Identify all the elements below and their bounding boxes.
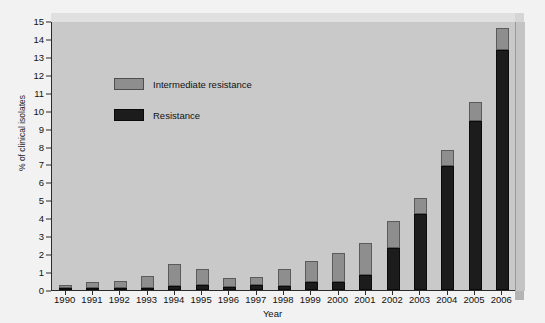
bar-segment-resistance [414, 214, 427, 290]
plot-area: Intermediate resistance Resistance [51, 22, 515, 291]
bar-segment-resistance [332, 282, 345, 290]
bar-segment-resistance [250, 285, 263, 290]
x-tick-label: 2005 [463, 294, 484, 305]
x-tick-label: 1992 [109, 294, 130, 305]
legend-item-resistance: Resistance [114, 109, 200, 121]
plot-right-bevel [515, 22, 525, 291]
bar-segment-intermediate [332, 253, 345, 282]
plot-bottom-bevel [515, 291, 524, 300]
bar-segment-resistance [223, 287, 236, 290]
y-tick-label: 14 [22, 35, 44, 45]
y-tick-label: 0 [22, 286, 44, 296]
bar-segment-intermediate [250, 277, 263, 284]
y-tick-label: 7 [22, 161, 44, 171]
y-tick-label: 12 [22, 71, 44, 81]
bar-segment-intermediate [469, 102, 482, 122]
bar-segment-intermediate [223, 278, 236, 287]
y-tick-label: 5 [22, 197, 44, 207]
bar-segment-intermediate [305, 261, 318, 282]
legend-label-resistance: Resistance [153, 110, 200, 121]
bar-segment-resistance [496, 50, 509, 290]
bar-segment-intermediate [114, 281, 127, 288]
y-tick-label: 9 [22, 125, 44, 135]
bar-segment-intermediate [387, 221, 400, 248]
bar-column [414, 21, 427, 290]
bar-segment-intermediate [168, 264, 181, 286]
chart-figure: % of clinical isolates 01234567891011121… [0, 0, 545, 323]
x-tick-label: 2004 [436, 294, 457, 305]
y-tick-label: 2 [22, 250, 44, 260]
legend-item-intermediate: Intermediate resistance [114, 78, 252, 90]
bar-column [332, 21, 345, 290]
y-tick-label: 3 [22, 232, 44, 242]
y-tick-label: 8 [22, 143, 44, 153]
x-tick-label: 1991 [81, 294, 102, 305]
bar-column [86, 21, 99, 290]
x-tick-label: 2003 [409, 294, 430, 305]
bar-segment-resistance [168, 286, 181, 290]
y-tick-label: 15 [22, 17, 44, 27]
x-tick-label: 2001 [354, 294, 375, 305]
bar-column [441, 21, 454, 290]
y-tick-label: 10 [22, 107, 44, 117]
bar-segment-intermediate [86, 282, 99, 288]
y-tick-label: 13 [22, 53, 44, 63]
x-tick-label: 1993 [136, 294, 157, 305]
x-tick-label: 1997 [245, 294, 266, 305]
plot-corner-bevel [515, 13, 524, 22]
bar-group [52, 22, 515, 290]
bar-segment-resistance [305, 282, 318, 290]
x-tick-label: 1995 [191, 294, 212, 305]
y-tick-label: 11 [22, 89, 44, 99]
bar-column [250, 21, 263, 290]
x-tick-label: 2000 [327, 294, 348, 305]
x-tick-label: 1994 [163, 294, 184, 305]
x-tick-label: 1996 [218, 294, 239, 305]
bar-segment-resistance [114, 288, 127, 290]
bar-column [359, 21, 372, 290]
bar-segment-resistance [141, 288, 154, 290]
bar-segment-intermediate [496, 28, 509, 50]
bar-segment-resistance [441, 166, 454, 290]
x-tick-label: 1998 [272, 294, 293, 305]
bar-column [469, 21, 482, 290]
bar-column [387, 21, 400, 290]
bar-segment-intermediate [196, 269, 209, 286]
bar-column [223, 21, 236, 290]
bar-segment-intermediate [414, 198, 427, 214]
bar-column [114, 21, 127, 290]
bar-segment-resistance [278, 286, 291, 290]
bar-column [141, 21, 154, 290]
bar-segment-resistance [86, 288, 99, 290]
x-tick-label: 2006 [491, 294, 512, 305]
bar-segment-resistance [469, 121, 482, 290]
legend-label-intermediate: Intermediate resistance [153, 79, 252, 90]
bar-segment-resistance [387, 248, 400, 290]
x-tick-label: 1990 [54, 294, 75, 305]
legend-swatch-resistance-icon [114, 109, 144, 121]
x-tick-label: 1999 [300, 294, 321, 305]
bar-segment-intermediate [141, 276, 154, 288]
bar-segment-intermediate [278, 269, 291, 286]
bar-column [496, 21, 509, 290]
bar-column [168, 21, 181, 290]
bar-segment-intermediate [59, 285, 72, 288]
bar-column [278, 21, 291, 290]
bar-segment-resistance [59, 288, 72, 290]
x-tick-label: 2002 [382, 294, 403, 305]
bar-segment-intermediate [359, 243, 372, 275]
y-tick-label: 1 [22, 268, 44, 278]
bar-segment-intermediate [441, 150, 454, 166]
bar-column [305, 21, 318, 290]
y-tick-label: 6 [22, 179, 44, 189]
bar-segment-resistance [196, 285, 209, 290]
x-axis-title: Year [0, 308, 545, 319]
bar-column [196, 21, 209, 290]
legend-swatch-intermediate-icon [114, 78, 144, 90]
bar-segment-resistance [359, 275, 372, 290]
y-tick-label: 4 [22, 215, 44, 225]
bar-column [59, 21, 72, 290]
